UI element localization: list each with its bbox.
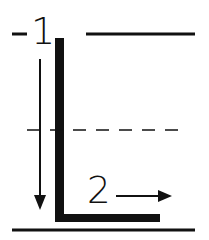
arrow-down-icon	[34, 195, 46, 210]
label-2: 2	[87, 172, 111, 209]
arrow-right-icon	[158, 190, 172, 202]
label-1: 1	[31, 12, 55, 50]
plate-horizontal-leg	[55, 214, 160, 222]
